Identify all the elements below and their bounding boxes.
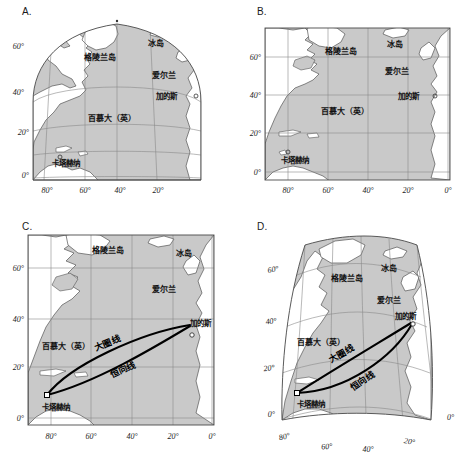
tick-lon-60: 60° bbox=[322, 186, 334, 195]
tick-lon-80: 80° bbox=[41, 186, 53, 195]
panel-c: C. bbox=[0, 215, 235, 462]
label-greenland: 格陵兰岛 bbox=[92, 245, 124, 255]
panel-d-map: 格陵兰岛 冰岛 爱尔兰 加的斯 百慕大（英） 卡塔赫纳 大圈线 恒向线 60° … bbox=[235, 215, 470, 462]
tick-lon-80: 80° bbox=[45, 432, 57, 441]
panel-b: B. bbox=[235, 0, 470, 215]
tick-lon-60: 60° bbox=[321, 441, 334, 451]
label-cadiz: 加的斯 bbox=[397, 91, 420, 101]
land-iceland bbox=[150, 27, 170, 37]
label-iceland: 冰岛 bbox=[176, 248, 192, 258]
panel-a: A. bbox=[0, 0, 235, 215]
label-bermuda: 百慕大（英） bbox=[321, 106, 369, 116]
label-bermuda: 百慕大（英） bbox=[42, 341, 90, 351]
label-cadiz: 加的斯 bbox=[394, 311, 417, 321]
panel-d: D. bbox=[235, 215, 470, 462]
tick-lon-40: 40° bbox=[362, 445, 374, 454]
marker-cartagena-endpoint bbox=[45, 393, 50, 398]
label-ireland: 爱尔兰 bbox=[152, 70, 176, 80]
label-cadiz: 加的斯 bbox=[155, 91, 178, 101]
tick-lat-40: 40° bbox=[265, 316, 278, 327]
label-cadiz: 加的斯 bbox=[189, 318, 212, 328]
land-south-america bbox=[282, 409, 353, 462]
label-bermuda: 百慕大（英） bbox=[297, 337, 345, 347]
label-cartagena: 卡塔赫纳 bbox=[52, 158, 81, 168]
land-hispaniola bbox=[307, 133, 319, 138]
tick-lat-0: 0° bbox=[22, 171, 30, 180]
tick-lat-40: 40° bbox=[13, 315, 25, 324]
tick-lon-40: 40° bbox=[126, 432, 138, 441]
tick-lat-40: 40° bbox=[13, 88, 25, 97]
marker-cadiz bbox=[411, 322, 415, 326]
tick-lat-20: 20° bbox=[13, 363, 25, 372]
tick-lat-40: 40° bbox=[250, 91, 262, 100]
tick-lon-0: 0° bbox=[208, 432, 216, 441]
label-iceland: 冰岛 bbox=[148, 38, 164, 48]
label-cartagena: 卡塔赫纳 bbox=[281, 155, 310, 165]
marker-cartagena-endpoint bbox=[295, 391, 300, 396]
label-ireland: 爱尔兰 bbox=[152, 284, 176, 294]
land-hispaniola bbox=[74, 372, 88, 377]
tick-lon-20: 20° bbox=[403, 436, 416, 447]
tick-lat-60: 60° bbox=[267, 264, 280, 275]
tick-lon-0: 0° bbox=[444, 186, 452, 195]
four-panel-map-figure: A. bbox=[0, 0, 470, 462]
label-ireland: 爱尔兰 bbox=[385, 66, 409, 76]
tick-lon-40: 40° bbox=[362, 186, 374, 195]
label-greenland: 格陵兰岛 bbox=[84, 52, 116, 62]
label-greenland: 格陵兰岛 bbox=[331, 273, 363, 283]
tick-lat-0: 0° bbox=[17, 414, 25, 423]
label-iceland: 冰岛 bbox=[387, 39, 403, 49]
tick-lat-0: 0° bbox=[268, 410, 276, 419]
label-cartagena: 卡塔赫纳 bbox=[42, 402, 71, 412]
panel-c-map: 格陵兰岛 冰岛 爱尔兰 加的斯 百慕大（英） 卡塔赫纳 大圈线 恒向线 60° … bbox=[0, 215, 235, 462]
tick-lon-60: 60° bbox=[85, 432, 97, 441]
tick-lon-80: 80° bbox=[282, 186, 294, 195]
marker-cadiz bbox=[190, 333, 194, 337]
panel-a-map: 格陵兰岛 冰岛 爱尔兰 加的斯 百慕大（英） 卡塔赫纳 60° 40° 20° … bbox=[0, 0, 235, 215]
label-iceland: 冰岛 bbox=[381, 263, 397, 273]
tick-lat-20: 20° bbox=[250, 129, 262, 138]
label-bermuda: 百慕大（英） bbox=[88, 113, 136, 123]
tick-lon-60: 60° bbox=[79, 186, 91, 195]
label-cartagena: 卡塔赫纳 bbox=[297, 399, 326, 409]
label-ireland: 爱尔兰 bbox=[377, 295, 401, 305]
tick-lon-80: 80° bbox=[278, 431, 292, 443]
tick-lat-60: 60° bbox=[13, 264, 25, 273]
tick-lon-20: 20° bbox=[167, 432, 179, 441]
pole-marker bbox=[116, 20, 118, 22]
tick-lon-0-right: 0° bbox=[447, 413, 455, 422]
tick-lat-60: 60° bbox=[13, 42, 25, 51]
tick-lat-20: 20° bbox=[18, 128, 30, 137]
tick-lat-20: 20° bbox=[263, 363, 276, 373]
tick-lon-20: 20° bbox=[152, 186, 164, 195]
tick-lon-20: 20° bbox=[402, 186, 414, 195]
panel-b-map: 格陵兰岛 冰岛 爱尔兰 加的斯 百慕大（英） 卡塔赫纳 60° 40° 20° … bbox=[235, 0, 470, 215]
tick-lat-60: 60° bbox=[250, 53, 262, 62]
tick-lat-0: 0° bbox=[254, 168, 262, 177]
label-greenland: 格陵兰岛 bbox=[325, 46, 357, 56]
tick-lon-40: 40° bbox=[114, 186, 126, 195]
